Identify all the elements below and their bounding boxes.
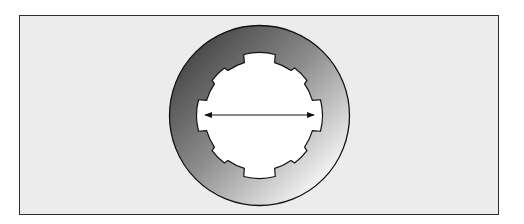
- splined-ring-diagram: [0, 0, 524, 224]
